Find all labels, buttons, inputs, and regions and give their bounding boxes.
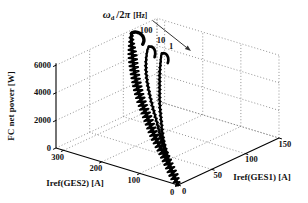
z-axis-label: FC net power [W] bbox=[6, 71, 16, 141]
tick-label: 6000 bbox=[34, 60, 51, 70]
trajectory-curves bbox=[128, 32, 179, 186]
title-slash: /2 bbox=[115, 9, 124, 20]
tick-label: 100 bbox=[245, 154, 258, 164]
curve-10-hook bbox=[149, 47, 155, 58]
3d-plot-figure: 01002003000501001500200040006000 ωd/2π[H… bbox=[0, 0, 308, 203]
tick-label: 4000 bbox=[34, 87, 51, 97]
title-pi: π bbox=[124, 9, 130, 20]
title-unit: [Hz] bbox=[133, 11, 147, 20]
x-axis-label: Iref(GES1) [A] bbox=[233, 172, 291, 182]
grid-line bbox=[123, 117, 245, 154]
tick-label: 100 bbox=[128, 175, 141, 185]
curve-label-10: 10 bbox=[157, 35, 166, 45]
tick-label: 200 bbox=[89, 163, 102, 173]
curve-1-hook bbox=[162, 53, 168, 63]
plot-canvas: 01002003000501001500200040006000 ωd/2π[H… bbox=[0, 0, 308, 203]
tick-label: 300 bbox=[51, 152, 64, 162]
tick-label: 50 bbox=[213, 170, 222, 180]
curve-label-100: 100 bbox=[140, 25, 153, 35]
grid-lines bbox=[56, 18, 279, 173]
title-omega: ω bbox=[103, 8, 111, 20]
tick-label: 150 bbox=[279, 139, 292, 149]
tick-label: 0 bbox=[170, 187, 174, 197]
tick-label: 0 bbox=[47, 143, 51, 153]
plot-title: ωd/2π[Hz] bbox=[103, 8, 148, 21]
grid-line bbox=[157, 73, 279, 110]
curve-label-1: 1 bbox=[169, 41, 173, 51]
z-tick bbox=[53, 148, 56, 149]
grid-line bbox=[157, 18, 279, 55]
y-axis-label: Iref(GES2) [A] bbox=[46, 178, 104, 188]
tick-label: 2000 bbox=[34, 115, 51, 125]
title-omega-subscript: d bbox=[111, 14, 115, 21]
grid-line bbox=[157, 46, 279, 83]
tick-label: 0 bbox=[182, 186, 186, 196]
